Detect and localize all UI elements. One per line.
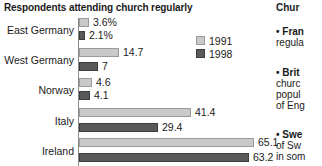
- side-entry-heading-france: • Fran: [276, 26, 322, 37]
- bar-norway-1991: [79, 78, 92, 87]
- side-entry-line: popul: [276, 89, 322, 100]
- category-label-norway: Norway: [0, 84, 74, 96]
- category-label-east-germany: East Germany: [0, 24, 74, 36]
- legend-swatch-icon-1991: [196, 36, 205, 45]
- chart-page: Respondents attending church regularly E…: [0, 0, 322, 166]
- bar-italy-1991: [79, 108, 191, 117]
- legend-item-1991: 1991: [196, 34, 232, 47]
- side-entry-line: regula: [276, 37, 322, 48]
- side-entry-britain: • Brit churc popul of Eng: [276, 67, 322, 111]
- bar-value-east-germany-1991: 3.6%: [93, 16, 117, 28]
- chart-legend: 1991 1998: [196, 34, 232, 60]
- side-column-title: Chur: [276, 2, 299, 13]
- bar-group-ireland: Ireland 65.1 63.2: [0, 136, 268, 166]
- legend-label-1991: 1991: [209, 35, 232, 47]
- bar-value-italy-1991: 41.4: [195, 106, 215, 118]
- bar-value-norway-1991: 4.6: [96, 76, 111, 88]
- side-entry-line: in som: [276, 151, 322, 162]
- bar-value-ireland-1998: 63.2: [253, 151, 273, 163]
- legend-item-1998: 1998: [196, 47, 232, 60]
- category-label-west-germany: West Germany: [0, 54, 74, 66]
- bar-value-norway-1998: 4.1: [94, 89, 109, 101]
- side-entry-france: • Fran regula: [276, 26, 322, 48]
- side-entry-sweden: • Swe of Sw in som: [276, 129, 322, 162]
- side-entry-line: of Sw: [276, 140, 322, 151]
- bar-value-italy-1998: 29.4: [162, 121, 182, 133]
- bar-east-germany-1991: [79, 18, 89, 27]
- bar-chart: East Germany 3.6% 2.1% West Germany 14.7…: [0, 16, 268, 166]
- legend-swatch-icon-1998: [196, 49, 205, 58]
- category-label-ireland: Ireland: [0, 145, 74, 157]
- bar-norway-1998: [79, 91, 90, 100]
- bar-east-germany-1998: [79, 31, 85, 40]
- bar-value-east-germany-1998: 2.1%: [89, 29, 113, 41]
- bar-value-west-germany-1998: 7: [102, 60, 108, 72]
- bar-ireland-1998: [79, 153, 249, 162]
- legend-label-1998: 1998: [209, 48, 232, 60]
- side-entry-line: of Eng: [276, 100, 322, 111]
- bar-ireland-1991: [79, 138, 254, 147]
- bar-west-germany-1998: [79, 62, 98, 71]
- bar-value-west-germany-1991: 14.7: [123, 46, 143, 58]
- bar-group-italy: Italy 41.4 29.4: [0, 106, 268, 136]
- bar-west-germany-1991: [79, 48, 119, 57]
- side-entry-line: churc: [276, 78, 322, 89]
- bar-group-norway: Norway 4.6 4.1: [0, 76, 268, 106]
- side-entry-heading-sweden: • Swe: [276, 129, 322, 140]
- side-entry-heading-britain: • Brit: [276, 67, 322, 78]
- bar-italy-1998: [79, 123, 158, 132]
- category-label-italy: Italy: [0, 115, 74, 127]
- side-column: Chur • Fran regula • Brit churc popul of…: [276, 0, 322, 166]
- page-title: Respondents attending church regularly: [4, 2, 192, 13]
